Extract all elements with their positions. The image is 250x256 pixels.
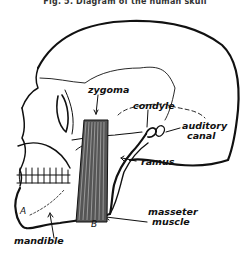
label-condyle: condyle: [133, 101, 175, 111]
label-masseter-line2: muscle: [152, 217, 190, 227]
label-ramus: ramus: [141, 157, 174, 167]
auditory-canal-shape: [154, 124, 166, 138]
label-zygoma: zygoma: [88, 85, 129, 95]
masseter-muscle-shape: [76, 120, 108, 222]
condyle-shape: [146, 128, 156, 137]
label-point-b: B: [91, 219, 97, 229]
label-mandible: mandible: [14, 236, 64, 246]
label-point-a: A: [20, 206, 26, 216]
label-auditory-canal-line2: canal: [187, 131, 215, 141]
